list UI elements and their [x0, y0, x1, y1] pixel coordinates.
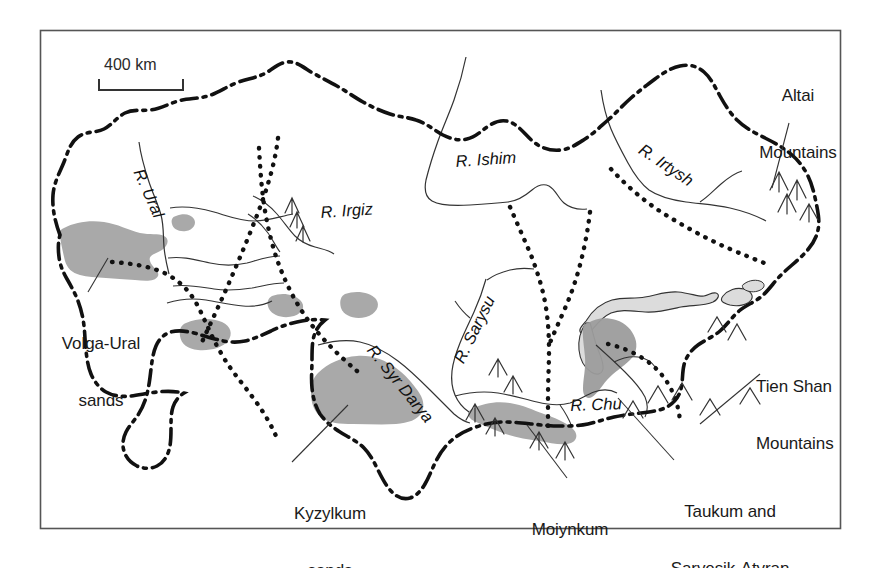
label-altai-line2: Mountains: [742, 143, 854, 162]
label-volga-ural-line2: sands: [38, 391, 164, 410]
label-tien-shan-mountains: Tien Shan Mountains: [756, 339, 876, 491]
label-kyzylkum-sands: Kyzylkum sands: [269, 466, 391, 568]
label-tien-shan-line2: Mountains: [756, 434, 876, 453]
label-river-chu: R. Chu: [570, 394, 622, 415]
label-volga-ural-line1: Volga-Ural: [38, 334, 164, 353]
label-moiynkum-line1: Moiynkum: [510, 520, 630, 539]
label-river-irgiz: R. Irgiz: [320, 199, 373, 222]
label-altai-line1: Altai: [742, 86, 854, 105]
label-moiynkum-sands: Moiynkum sands: [510, 482, 630, 568]
label-volga-ural-sands: Volga-Ural sands: [38, 296, 164, 448]
label-tien-shan-line1: Tien Shan: [756, 377, 876, 396]
label-taukum-line1: Taukum and: [637, 502, 823, 521]
map-figure: 400 km Volga-Ural sands Kyzylkum sands M…: [0, 0, 876, 568]
label-kyzylkum-line1: Kyzylkum: [269, 504, 391, 523]
label-kyzylkum-line2: sands: [269, 561, 391, 568]
label-altai-mountains: Altai Mountains: [742, 48, 854, 200]
sand-area-small-ural: [172, 214, 195, 231]
label-taukum-line2: Saryesik-Atyran: [637, 559, 823, 568]
scale-bar-label: 400 km: [104, 56, 156, 74]
